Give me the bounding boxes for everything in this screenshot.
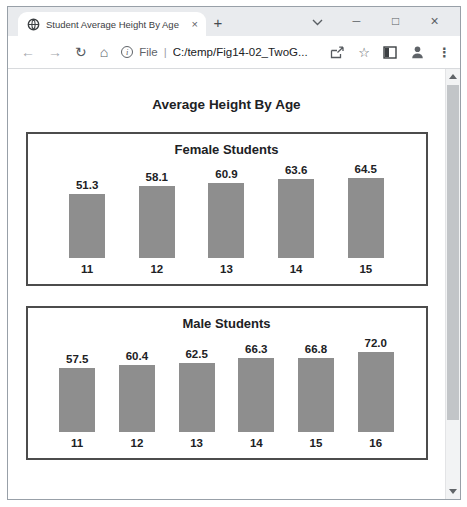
chart-title: Female Students — [36, 142, 418, 157]
bars-row: 51.31158.11260.91363.61464.515 — [36, 163, 418, 275]
url-divider: | — [164, 46, 167, 58]
bar-group: 66.815 — [298, 343, 334, 449]
bar-group: 57.511 — [59, 353, 95, 449]
female-students-chart: Female Students 51.31158.11260.91363.614… — [26, 132, 428, 286]
share-icon[interactable] — [330, 46, 345, 59]
bar-category-label: 14 — [250, 437, 263, 449]
bar-category-label: 11 — [81, 263, 93, 275]
maximize-button[interactable]: □ — [376, 7, 415, 36]
page-title: Average Height By Age — [8, 97, 445, 112]
bar-group: 66.314 — [238, 343, 274, 449]
bar-category-label: 13 — [220, 263, 233, 275]
bar-category-label: 12 — [131, 437, 144, 449]
bar-group: 72.016 — [358, 337, 394, 449]
new-tab-button[interactable]: + — [206, 12, 230, 36]
browser-toolbar: ← → ↻ ⌂ i File | C:/temp/Fig14-02_TwoG..… — [8, 36, 460, 69]
tab-title: Student Average Height By Age — [46, 19, 183, 30]
url-scheme: File — [139, 46, 158, 58]
home-button[interactable]: ⌂ — [100, 44, 108, 60]
bar — [278, 179, 314, 258]
bar-category-label: 13 — [190, 437, 203, 449]
chart-title: Male Students — [36, 316, 418, 331]
bar-category-label: 16 — [369, 437, 382, 449]
bar — [179, 363, 215, 432]
profile-avatar-icon[interactable] — [410, 45, 425, 59]
bar-category-label: 11 — [71, 437, 83, 449]
side-panel-icon[interactable] — [383, 46, 397, 59]
bar-group: 51.311 — [69, 179, 105, 275]
bar-value-label: 62.5 — [185, 348, 207, 360]
menu-kebab-icon[interactable]: ⋮ — [438, 45, 451, 60]
tab-search-chevron-icon[interactable] — [298, 7, 337, 36]
bar-category-label: 12 — [150, 263, 163, 275]
bar-value-label: 64.5 — [355, 163, 377, 175]
bookmark-star-icon[interactable]: ☆ — [358, 45, 370, 60]
bar-value-label: 72.0 — [365, 337, 387, 349]
bar — [238, 358, 274, 432]
close-window-button[interactable]: × — [415, 7, 454, 36]
back-button[interactable]: ← — [21, 44, 35, 60]
minimize-button[interactable]: ─ — [337, 7, 376, 36]
bar — [208, 183, 244, 259]
tab-student-average-height[interactable]: Student Average Height By Age × — [18, 12, 206, 36]
bar-value-label: 66.3 — [245, 343, 267, 355]
bar-group: 60.913 — [208, 168, 244, 276]
bar — [69, 194, 105, 258]
bar-value-label: 51.3 — [76, 179, 98, 191]
address-bar[interactable]: i File | C:/temp/Fig14-02_TwoG... — [121, 46, 317, 58]
bar-value-label: 58.1 — [146, 171, 168, 183]
bar — [358, 352, 394, 432]
url-path: C:/temp/Fig14-02_TwoG... — [173, 46, 308, 58]
scroll-up-arrow-icon[interactable] — [446, 69, 460, 84]
globe-favicon-icon — [27, 18, 40, 31]
bar-group: 64.515 — [348, 163, 384, 275]
bars-row: 57.51160.41262.51366.31466.81572.016 — [36, 337, 418, 449]
bar — [59, 368, 95, 432]
tab-strip: Student Average Height By Age × + ─ □ × — [8, 7, 460, 36]
tab-close-icon[interactable]: × — [189, 18, 201, 30]
bar — [139, 186, 175, 258]
bar-group: 62.513 — [179, 348, 215, 449]
reload-button[interactable]: ↻ — [75, 44, 87, 60]
bar-value-label: 66.8 — [305, 343, 327, 355]
bar-category-label: 14 — [290, 263, 303, 275]
bar-group: 63.614 — [278, 164, 314, 275]
vertical-scrollbar[interactable] — [445, 69, 460, 499]
bar-category-label: 15 — [359, 263, 372, 275]
browser-window: Student Average Height By Age × + ─ □ × … — [7, 6, 461, 500]
page-info-icon[interactable]: i — [121, 46, 133, 58]
scrollbar-thumb[interactable] — [447, 85, 459, 420]
bar-category-label: 15 — [310, 437, 323, 449]
document-area: Average Height By Age Female Students 51… — [8, 69, 445, 499]
male-students-chart: Male Students 57.51160.41262.51366.31466… — [26, 306, 428, 460]
page-content: Average Height By Age Female Students 51… — [8, 69, 460, 499]
scroll-down-arrow-icon[interactable] — [446, 484, 460, 499]
window-controls: ─ □ × — [298, 7, 460, 36]
bar-value-label: 63.6 — [285, 164, 307, 176]
bar — [298, 358, 334, 432]
bar-group: 60.412 — [119, 350, 155, 449]
bar-group: 58.112 — [139, 171, 175, 275]
bar-value-label: 57.5 — [66, 353, 88, 365]
bar — [348, 178, 384, 258]
bar-value-label: 60.9 — [215, 168, 237, 180]
bar — [119, 365, 155, 432]
bar-value-label: 60.4 — [126, 350, 148, 362]
forward-button[interactable]: → — [48, 44, 62, 60]
